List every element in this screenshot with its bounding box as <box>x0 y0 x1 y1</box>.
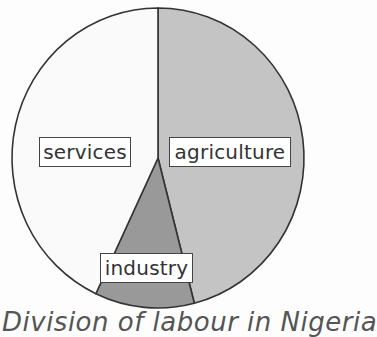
chart-caption: Division of labour in Nigeria <box>2 307 377 337</box>
label-industry: industry <box>100 253 193 283</box>
label-services: services <box>39 137 131 167</box>
label-agriculture: agriculture <box>169 137 291 167</box>
